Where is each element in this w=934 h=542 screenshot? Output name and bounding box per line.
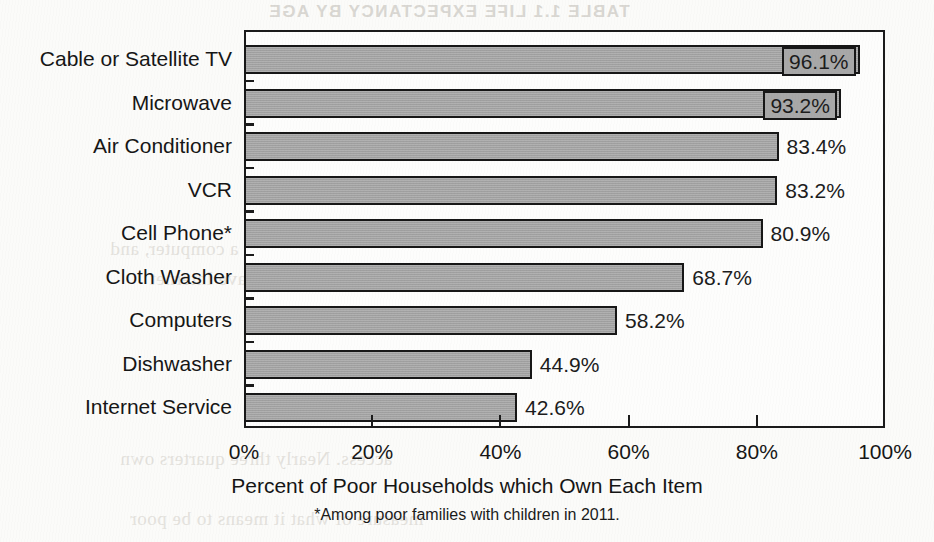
bar-texture [246, 178, 775, 203]
x-axis-tick [371, 415, 373, 426]
bar-value-label: 96.1% [782, 47, 856, 76]
bar-texture [246, 308, 615, 333]
chart-footnote: *Among poor families with children in 20… [0, 506, 934, 524]
bar-row[interactable]: 44.9% [244, 343, 885, 385]
plot-area: 96.1%93.2%83.4%83.2%80.9%68.7%58.2%44.9%… [244, 30, 885, 428]
bar-row[interactable]: 83.2% [244, 169, 885, 211]
category-label-1: Microwave [0, 91, 232, 115]
bar-row[interactable]: 83.4% [244, 125, 885, 167]
bar-row[interactable]: 93.2% [244, 82, 885, 124]
bar-texture [246, 221, 761, 246]
bar-row[interactable]: 68.7% [244, 256, 885, 298]
bar-value-label: 93.2% [763, 91, 837, 120]
bar[interactable] [244, 176, 777, 205]
x-tick-label-60: 60% [608, 440, 650, 464]
bar-value-label: 68.7% [692, 266, 752, 289]
bar[interactable] [244, 132, 779, 161]
category-label-8: Internet Service [0, 395, 232, 419]
category-label-4: Cell Phone* [0, 221, 232, 245]
x-tick-label-0: 0% [229, 440, 259, 464]
bar-texture [246, 91, 839, 116]
bar-row[interactable]: 42.6% [244, 386, 885, 428]
x-tick-label-80: 80% [736, 440, 778, 464]
x-axis-tick [499, 415, 501, 426]
bar[interactable] [244, 89, 841, 118]
category-label-3: VCR [0, 178, 232, 202]
bar[interactable] [244, 263, 684, 292]
bar-row[interactable]: 96.1% [244, 38, 885, 80]
category-label-5: Cloth Washer [0, 265, 232, 289]
bar[interactable] [244, 45, 860, 74]
category-label-6: Computers [0, 308, 232, 332]
bar[interactable] [244, 350, 532, 379]
bar-value-label: 83.2% [785, 179, 845, 202]
category-label-0: Cable or Satellite TV [0, 47, 232, 71]
bar[interactable] [244, 393, 517, 422]
x-axis-tick [628, 415, 630, 426]
bar[interactable] [244, 306, 617, 335]
bar-texture [246, 47, 858, 72]
x-tick-label-100: 100% [858, 440, 912, 464]
bar-value-label: 83.4% [787, 135, 847, 158]
bar-value-label: 42.6% [525, 396, 585, 419]
chart-page: TABLE 1.1 LIFE EXPECTANCY BY AGE househo… [0, 0, 934, 542]
bar[interactable] [244, 219, 763, 248]
bar-texture [246, 265, 682, 290]
x-tick-label-40: 40% [479, 440, 521, 464]
bar-value-label: 80.9% [771, 222, 831, 245]
bar-texture [246, 352, 530, 377]
bar-value-label: 58.2% [625, 309, 685, 332]
category-label-7: Dishwasher [0, 352, 232, 376]
bar-row[interactable]: 80.9% [244, 212, 885, 254]
showthrough-title-text: TABLE 1.1 LIFE EXPECTANCY BY AGE [268, 2, 630, 22]
bar-row[interactable]: 58.2% [244, 299, 885, 341]
bar-texture [246, 395, 515, 420]
x-axis-title: Percent of Poor Households which Own Eac… [0, 474, 934, 498]
bar-value-label: 44.9% [540, 353, 600, 376]
category-label-2: Air Conditioner [0, 134, 232, 158]
x-tick-label-20: 20% [351, 440, 393, 464]
bar-texture [246, 134, 777, 159]
x-axis-tick [756, 415, 758, 426]
